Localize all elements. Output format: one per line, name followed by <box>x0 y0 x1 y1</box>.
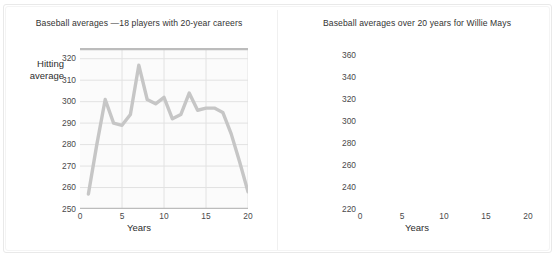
y-axis-tick-label: 360 <box>330 50 356 60</box>
x-axis-tick-label: 0 <box>70 211 90 221</box>
y-axis-tick-label: 260 <box>50 182 76 192</box>
chart-left: Baseball averages —18 players with 20-ye… <box>0 0 278 262</box>
y-axis-tick-label: 290 <box>50 118 76 128</box>
x-axis-tick-label: 15 <box>476 211 496 221</box>
figure-root: Baseball averages —18 players with 20-ye… <box>0 0 556 262</box>
y-axis-tick-label: 340 <box>330 72 356 82</box>
y-axis-tick-label: 310 <box>50 75 76 85</box>
chart-left-x-axis-label: Years <box>0 222 278 233</box>
chart-left-title: Baseball averages —18 players with 20-ye… <box>0 18 278 28</box>
chart-right-x-axis-label: Years <box>278 222 556 233</box>
y-axis-tick-label: 320 <box>50 53 76 63</box>
x-axis-tick-label: 15 <box>196 211 216 221</box>
x-axis-tick-label: 5 <box>112 211 132 221</box>
left-plot-svg <box>80 48 248 209</box>
chart-right: Baseball averages over 20 years for Will… <box>278 0 556 262</box>
x-axis-tick-label: 10 <box>434 211 454 221</box>
x-axis-tick-label: 5 <box>392 211 412 221</box>
y-axis-tick-label: 300 <box>330 116 356 126</box>
x-axis-tick-label: 0 <box>350 211 370 221</box>
x-axis-tick-label: 10 <box>154 211 174 221</box>
x-axis-tick-label: 20 <box>238 211 258 221</box>
chart-left-plot-area <box>80 48 248 209</box>
data-series-line <box>88 65 248 194</box>
y-axis-tick-label: 260 <box>330 160 356 170</box>
y-axis-tick-label: 270 <box>50 161 76 171</box>
y-axis-tick-label: 300 <box>50 96 76 106</box>
y-axis-tick-label: 280 <box>330 138 356 148</box>
x-axis-tick-label: 20 <box>518 211 538 221</box>
chart-right-title: Baseball averages over 20 years for Will… <box>278 18 556 28</box>
y-axis-tick-label: 320 <box>330 94 356 104</box>
y-axis-tick-label: 240 <box>330 182 356 192</box>
y-axis-tick-label: 280 <box>50 139 76 149</box>
